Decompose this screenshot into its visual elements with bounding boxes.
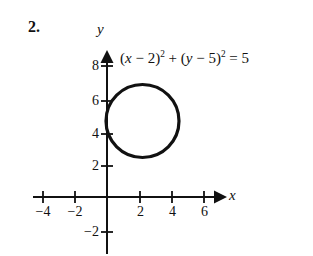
graph-figure: 2. y x (x − 2)2 + (y − 5)2 = 5 −4 −2 2 4… (0, 0, 313, 256)
y-axis-arrowhead (101, 50, 114, 63)
y-tick-label-4: 4 (86, 127, 99, 141)
x-tick-label-2: 2 (134, 205, 147, 219)
x-tick-label-4: 4 (166, 205, 179, 219)
x-tick-label-neg4: −4 (33, 205, 53, 219)
x-axis-arrowhead (214, 191, 227, 204)
circle-graph (106, 85, 179, 158)
x-tick-label-neg2: −2 (65, 205, 85, 219)
y-tick-label-2: 2 (86, 159, 99, 173)
y-tick-label-neg2: −2 (78, 225, 99, 239)
x-tick-label-6: 6 (198, 205, 211, 219)
y-tick-label-6: 6 (86, 94, 99, 108)
y-tick-label-8: 8 (86, 59, 99, 73)
